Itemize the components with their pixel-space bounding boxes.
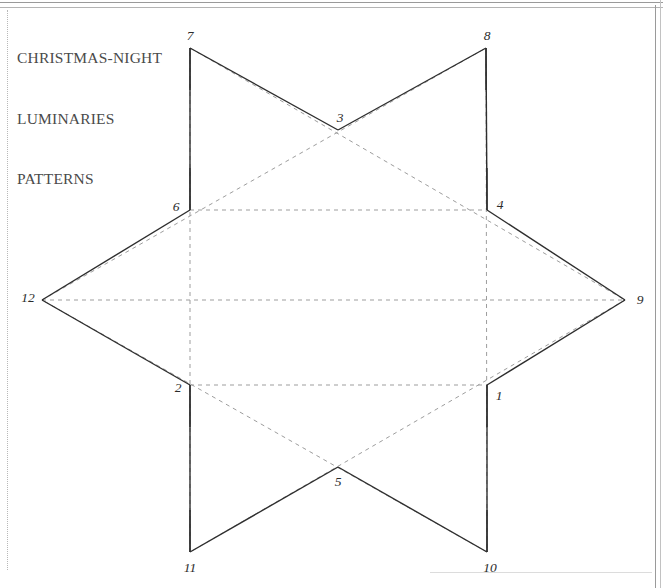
vertex-label-11: 11 (184, 560, 197, 576)
vertex-label-6: 6 (173, 199, 180, 215)
star-edge-9-1 (487, 300, 625, 385)
dashed-edge-triangle-b-12-8 (42, 48, 486, 300)
star-pattern-svg (0, 0, 663, 588)
dashed-edge-triangle-a-7-9 (190, 48, 625, 300)
star-edge-12-6 (42, 210, 190, 300)
vertex-label-5: 5 (335, 474, 342, 490)
vertex-label-9: 9 (637, 292, 644, 308)
star-edge-8-4 (486, 48, 487, 210)
star-edge-3-8 (338, 48, 486, 130)
vertex-label-4: 4 (497, 197, 504, 213)
star-edge-4-9 (487, 210, 625, 300)
dashed-construction-lines (42, 48, 625, 552)
star-edge-7-3 (190, 48, 338, 130)
vertex-label-1: 1 (496, 388, 503, 404)
star-pattern-figure: 123456789101112 (0, 0, 663, 588)
vertex-label-7: 7 (187, 28, 194, 44)
star-edge-2-12 (42, 300, 190, 385)
vertex-label-2: 2 (175, 380, 182, 396)
vertex-label-10: 10 (483, 560, 497, 576)
vertex-label-3: 3 (337, 110, 344, 126)
vertex-label-12: 12 (21, 290, 35, 306)
star-edge-5-11 (190, 467, 338, 552)
star-edge-10-5 (338, 467, 487, 552)
vertex-label-8: 8 (484, 28, 491, 44)
